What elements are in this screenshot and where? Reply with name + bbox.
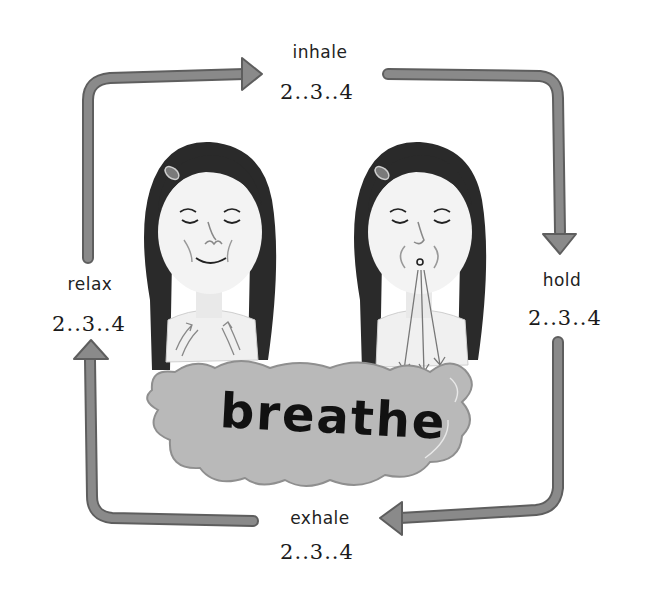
count-relax: 2..3..4: [34, 312, 144, 336]
label-inhale: inhale: [280, 42, 360, 62]
label-exhale: exhale: [280, 508, 360, 528]
title-breathe: breathe: [219, 382, 448, 450]
count-exhale: 2..3..4: [262, 540, 372, 564]
count-hold: 2..3..4: [510, 306, 620, 330]
label-relax: relax: [60, 274, 120, 294]
count-inhale: 2..3..4: [262, 80, 372, 104]
label-hold: hold: [532, 270, 592, 290]
girl-exhaling: [354, 142, 486, 372]
breathing-cycle-diagram: breathe inhale 2..3..4 hold 2..3..4 exha…: [0, 0, 645, 603]
girl-inhaling: [144, 142, 276, 370]
